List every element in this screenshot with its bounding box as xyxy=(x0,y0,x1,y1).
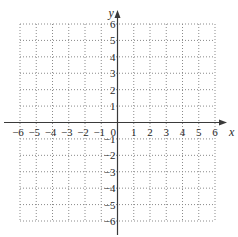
y-tick-label: 1 xyxy=(110,100,116,112)
x-tick-label: −4 xyxy=(45,126,57,138)
x-axis-label: x xyxy=(228,125,235,139)
x-tick-label: 3 xyxy=(164,126,170,138)
coordinate-plane: −6−5−4−3−2−1123456654321−1−2−3−4−5−6 x y… xyxy=(0,0,238,237)
y-tick-label: 3 xyxy=(110,67,116,79)
y-tick-label: −2 xyxy=(104,149,116,161)
y-tick-label: −5 xyxy=(104,199,116,211)
axes xyxy=(4,10,227,235)
x-tick-label: −3 xyxy=(61,126,73,138)
y-tick-label: 4 xyxy=(110,51,116,63)
x-tick-label: 4 xyxy=(180,126,186,138)
x-tick-label: 1 xyxy=(131,126,137,138)
x-tick-label: 6 xyxy=(212,126,218,138)
y-tick-label: −3 xyxy=(104,166,116,178)
y-axis-label: y xyxy=(108,6,115,20)
x-axis-arrow-icon xyxy=(219,120,227,126)
y-tick-label: 5 xyxy=(110,34,116,46)
x-tick-label: −2 xyxy=(77,126,89,138)
y-tick-label: −4 xyxy=(104,182,116,194)
y-axis-arrow-icon xyxy=(115,10,121,18)
x-tick-label: −5 xyxy=(28,126,40,138)
y-tick-label: 2 xyxy=(110,84,116,96)
origin-label: 0 xyxy=(111,126,117,138)
x-tick-label: 2 xyxy=(147,126,153,138)
y-tick-label: −6 xyxy=(104,215,116,227)
x-tick-label: 5 xyxy=(196,126,202,138)
x-tick-label: −6 xyxy=(12,126,24,138)
